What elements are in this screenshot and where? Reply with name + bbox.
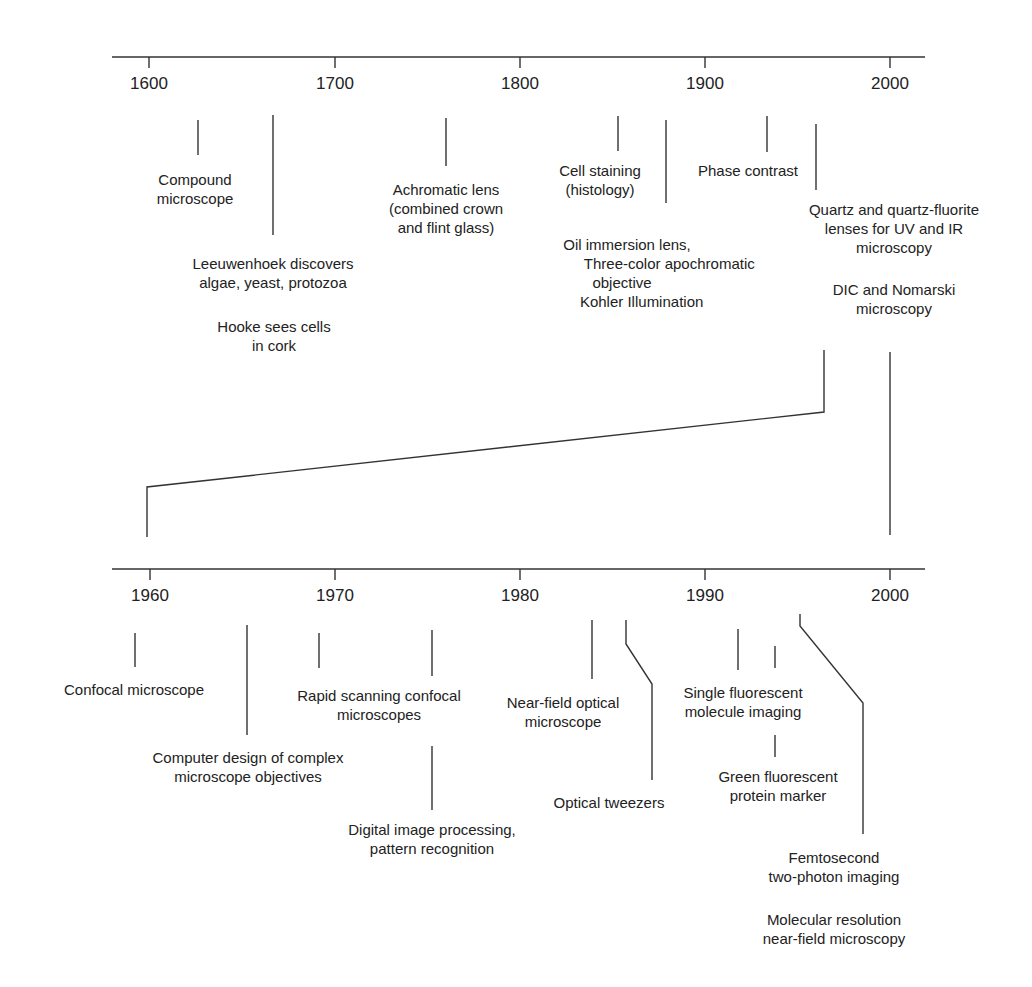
event-phase-contrast: Phase contrast: [698, 161, 798, 180]
bottom-tick-label: 1960: [131, 586, 169, 606]
event-dic-nomarski: DIC and Nomarski microscopy: [833, 280, 956, 318]
top-tick-label: 1800: [501, 74, 539, 94]
zoom-connector: [147, 350, 824, 537]
event-cell-staining: Cell staining (histology): [559, 161, 641, 199]
event-hooke: Hooke sees cells in cork: [217, 317, 330, 355]
event-single-molecule: Single fluorescent molecule imaging: [683, 683, 802, 721]
event-gfp-marker: Green fluorescent protein marker: [718, 767, 837, 805]
event-digital-image-processing: Digital image processing, pattern recogn…: [348, 820, 516, 858]
bottom-tick-label: 1980: [501, 586, 539, 606]
event-quartz-lenses: Quartz and quartz-fluorite lenses for UV…: [809, 200, 979, 257]
event-femtosecond: Femtosecond two-photon imaging: [769, 848, 900, 886]
event-oil-immersion: Oil immersion lens, Three-color apochrom…: [563, 235, 754, 311]
event-achromatic-lens: Achromatic lens (combined crown and flin…: [389, 180, 503, 237]
event-compound-microscope: Compound microscope: [157, 170, 234, 208]
timeline-diagram: [0, 0, 1032, 987]
bottom-tick-label: 2000: [871, 586, 909, 606]
event-confocal-microscope: Confocal microscope: [64, 680, 204, 699]
event-molecular-resolution: Molecular resolution near-field microsco…: [763, 910, 906, 948]
top-tick-label: 1600: [130, 74, 168, 94]
event-computer-design: Computer design of complex microscope ob…: [153, 748, 344, 786]
bottom-tick-label: 1990: [686, 586, 724, 606]
top-tick-label: 1900: [686, 74, 724, 94]
top-tick-label: 2000: [871, 74, 909, 94]
event-near-field-optical: Near-field optical microscope: [507, 693, 620, 731]
event-rapid-scanning: Rapid scanning confocal microscopes: [297, 686, 460, 724]
event-leeuwenhoek: Leeuwenhoek discovers algae, yeast, prot…: [193, 254, 354, 292]
bottom-tick-label: 1970: [316, 586, 354, 606]
top-tick-label: 1700: [316, 74, 354, 94]
leader-optical-tweezers: [626, 620, 652, 780]
event-optical-tweezers: Optical tweezers: [554, 793, 665, 812]
